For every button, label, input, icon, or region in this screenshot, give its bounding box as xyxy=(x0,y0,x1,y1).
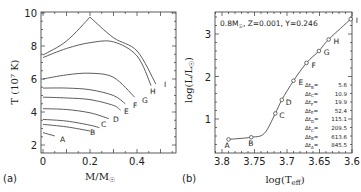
track-point-C xyxy=(274,112,278,116)
curve-A xyxy=(43,133,55,136)
track-point-D xyxy=(280,98,284,102)
curve-label-D: D xyxy=(113,115,119,124)
curve-label-F: F xyxy=(133,101,137,110)
curve-E xyxy=(43,97,121,110)
track-point-F xyxy=(305,61,309,65)
track-point-H xyxy=(327,38,331,42)
curve-F xyxy=(43,88,125,104)
track-label-E: E xyxy=(299,78,304,87)
x-tick-label: 3.65 xyxy=(308,156,330,167)
panel-b-xlabel: log(Teff) xyxy=(265,174,304,187)
track-label-A: A xyxy=(225,141,231,150)
curve-label-G: G xyxy=(142,96,148,105)
panel-b-ylabel: log(L/L☉) xyxy=(183,57,196,103)
curve-label-C: C xyxy=(101,120,106,129)
timescale-value: 115.1 xyxy=(331,116,347,122)
panel-a-ylabel: T (10⁷ K) xyxy=(9,59,20,104)
timescale-row: ΔtC= xyxy=(305,125,319,133)
curve-label-E: E xyxy=(124,107,129,116)
panel-a-label: (a) xyxy=(3,173,17,184)
x-tick-label: 3.8 xyxy=(214,156,230,167)
curve-label-I: I xyxy=(164,80,166,89)
y-tick-label: 2 xyxy=(31,140,37,151)
y-tick-label: 10 xyxy=(24,8,37,19)
panel-a-frame xyxy=(41,12,176,153)
timescale-value: 52.4 xyxy=(335,108,348,114)
timescale-value: 19.9 xyxy=(335,99,348,105)
y-tick-label: 4 xyxy=(31,107,37,118)
x-tick-label: 0.2 xyxy=(82,156,98,167)
y-tick-label: 2 xyxy=(205,72,211,83)
panel-b-label: (b) xyxy=(182,173,196,184)
curve-D xyxy=(43,109,109,119)
track-point-I xyxy=(349,17,353,21)
track-label-C: C xyxy=(279,111,284,120)
panel-a: ABCDEFGHI 00.20.4246810 M/M☉ T (10⁷ K) (… xyxy=(3,8,176,184)
curve-label-A: A xyxy=(60,135,66,144)
timescale-row: ΔtC= xyxy=(305,91,319,99)
panel-a-curves xyxy=(43,17,156,136)
timescale-row: ΔtE= xyxy=(305,108,318,116)
timescale-row: ΔtA= xyxy=(305,142,319,150)
curve-H xyxy=(43,41,151,86)
y-tick-label: 1 xyxy=(205,114,211,125)
y-tick-label: 3 xyxy=(205,29,211,40)
panel-a-xlabel: M/M☉ xyxy=(85,171,115,184)
curve-G xyxy=(43,73,135,97)
curve-B xyxy=(43,124,90,131)
timescale-value: 5.6 xyxy=(338,82,347,88)
x-tick-label: 0.4 xyxy=(129,156,145,167)
track-label-B: B xyxy=(248,139,253,148)
panel-b-ticks xyxy=(215,12,352,153)
x-tick-label: 3.75 xyxy=(243,156,265,167)
timescale-value: 209.5 xyxy=(331,125,347,131)
panel-a-ticks xyxy=(41,12,176,153)
panel-b: ABCDEFGHI 3.83.753.73.653.6123 ΔtB=5.6Δt… xyxy=(182,12,360,187)
timescale-row: ΔtF= xyxy=(305,99,318,107)
timescale-value: 845.5 xyxy=(331,142,347,148)
y-tick-label: 8 xyxy=(31,41,37,52)
x-tick-label: 3.6 xyxy=(344,156,360,167)
track-label-F: F xyxy=(312,61,316,70)
timescale-row: ΔtD= xyxy=(305,116,319,124)
x-tick-label: 0 xyxy=(40,156,46,167)
x-tick-label: 3.7 xyxy=(279,156,295,167)
timescale-value: 10.9 xyxy=(335,91,348,97)
track-point-G xyxy=(317,49,321,53)
panel-b-timescale-legend: ΔtB=5.6ΔtC=10.9ΔtF=19.9ΔtE=52.4ΔtD=115.1… xyxy=(305,82,347,150)
figure: ABCDEFGHI 00.20.4246810 M/M☉ T (10⁷ K) (… xyxy=(0,0,361,192)
track-point-E xyxy=(292,79,296,83)
timescale-row: ΔtB= xyxy=(305,82,319,90)
panel-b-frame xyxy=(215,12,352,153)
track-label-G: G xyxy=(324,48,330,57)
panel-a-curve-labels: ABCDEFGHI xyxy=(60,80,166,144)
y-tick-label: 6 xyxy=(31,74,37,85)
panel-b-title: 0.8M☉, Z=0.001, Y=0.246 xyxy=(220,19,318,29)
track-label-I: I xyxy=(356,16,358,25)
curve-C xyxy=(43,119,99,127)
track-label-H: H xyxy=(334,37,340,46)
curve-label-B: B xyxy=(90,128,95,137)
timescale-value: 613.6 xyxy=(331,134,347,140)
timescale-row: ΔtB= xyxy=(305,134,319,142)
track-label-D: D xyxy=(286,98,292,107)
curve-label-H: H xyxy=(150,87,156,96)
